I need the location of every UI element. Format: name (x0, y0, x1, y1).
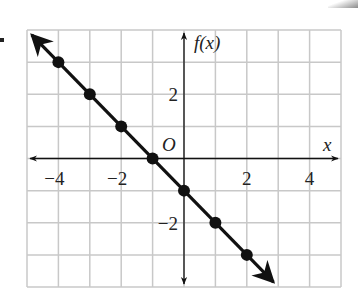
y-tick-label: −2 (158, 213, 178, 234)
function-graph: −4−2242−2 f(x) x O (0, 0, 358, 293)
data-point (209, 217, 221, 229)
x-tick-label: 2 (242, 168, 252, 189)
x-tick-label: −4 (44, 168, 65, 189)
axes (30, 33, 338, 284)
data-point (241, 249, 253, 261)
y-axis-label: f(x) (194, 32, 220, 54)
data-point (84, 88, 96, 100)
y-tick-label: 2 (169, 84, 179, 105)
origin-label: O (162, 134, 176, 155)
data-point (178, 185, 190, 197)
data-point (147, 153, 159, 165)
data-point (115, 120, 127, 132)
data-point (52, 56, 64, 68)
x-tick-label: −2 (107, 168, 127, 189)
x-axis-label: x (322, 134, 332, 155)
x-tick-label: 4 (305, 168, 315, 189)
